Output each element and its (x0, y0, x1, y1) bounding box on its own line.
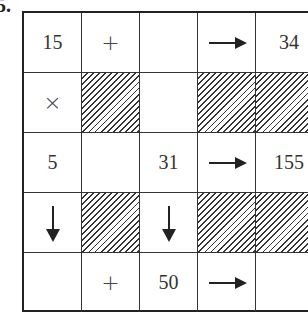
arrow-right-cell (198, 13, 256, 73)
arrow-right-cell (198, 133, 256, 193)
arrow-down-cell (140, 193, 198, 253)
arrow-right-icon (209, 282, 245, 284)
problem-label: 5. (0, 0, 11, 17)
number-cell: 5 (24, 133, 82, 193)
number-value: 155 (274, 151, 304, 174)
empty-cell[interactable] (82, 133, 140, 193)
operator-cell: × (24, 73, 82, 133)
number-value: 5 (48, 151, 58, 174)
operator-symbol: × (43, 90, 61, 115)
arrow-right-cell (198, 253, 256, 312)
shaded-cell (256, 73, 308, 133)
number-value: 34 (279, 31, 299, 54)
empty-cell[interactable] (140, 13, 198, 73)
operator-symbol: + (101, 30, 119, 55)
empty-cell[interactable] (256, 253, 308, 312)
empty-cell[interactable] (140, 73, 198, 133)
arrow-right-icon (209, 162, 245, 164)
operator-cell: + (82, 253, 140, 312)
empty-cell[interactable] (24, 253, 82, 312)
arrow-down-icon (52, 206, 54, 240)
shaded-cell (82, 193, 140, 253)
number-cell: 15 (24, 13, 82, 73)
number-value: 15 (43, 31, 63, 54)
number-value: 31 (159, 151, 179, 174)
arithmetic-grid: 15+34×531155+50 (22, 11, 308, 312)
shaded-cell (82, 73, 140, 133)
number-value: 50 (159, 271, 179, 294)
operator-symbol: + (101, 270, 119, 295)
shaded-cell (198, 73, 256, 133)
number-cell: 34 (256, 13, 308, 73)
shaded-cell (198, 193, 256, 253)
number-cell: 155 (256, 133, 308, 193)
arrow-down-icon (168, 206, 170, 240)
shaded-cell (256, 193, 308, 253)
operator-cell: + (82, 13, 140, 73)
number-cell: 50 (140, 253, 198, 312)
number-cell: 31 (140, 133, 198, 193)
arrow-right-icon (209, 42, 245, 44)
arrow-down-cell (24, 193, 82, 253)
